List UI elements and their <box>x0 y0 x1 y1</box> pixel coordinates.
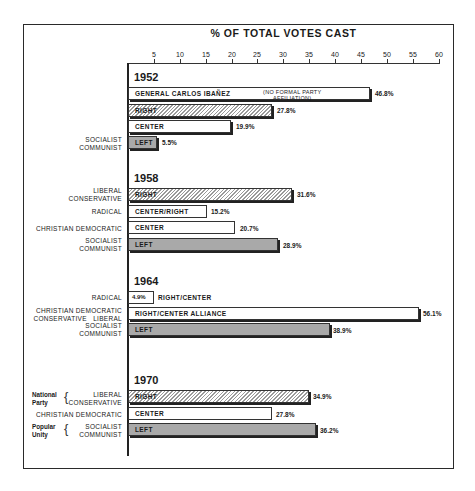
party-label: RADICAL <box>92 208 122 216</box>
bar-left: LEFT <box>128 136 157 149</box>
party-name: CONSERVATIVE LIBERAL <box>33 315 122 323</box>
year-label: 1952 <box>134 71 158 83</box>
year-label: 1958 <box>134 172 158 184</box>
value-label: 19.9% <box>236 123 254 130</box>
tick-label: 35 <box>305 51 313 58</box>
year-label: 1970 <box>134 374 158 386</box>
bar-right: RIGHT <box>128 104 272 117</box>
party-name: COMMUNIST <box>79 144 122 152</box>
tick-label: 25 <box>253 51 261 58</box>
bar-ibanez: GENERAL CARLOS IBAÑEZ (NO FORMAL PARTY A… <box>128 87 370 100</box>
value-label: 28.9% <box>283 242 301 249</box>
party-label: SOCIALIST COMMUNIST <box>79 322 122 337</box>
party-name: COMMUNIST <box>79 330 122 338</box>
bar-right-center-alliance: RIGHT/CENTER ALLIANCE <box>128 307 419 320</box>
coalition-name: National <box>32 391 57 399</box>
value-label: 31.6% <box>297 191 315 198</box>
bar-note: (NO FORMAL PARTY AFFILIATION) <box>263 89 321 101</box>
value-label: 46.8% <box>375 90 393 97</box>
party-name: SOCIALIST <box>79 322 122 330</box>
tick-label: 50 <box>383 51 391 58</box>
coalition-name: Party <box>32 399 57 407</box>
party-name: CONSERVATIVE <box>69 195 122 203</box>
year-label: 1964 <box>134 275 158 287</box>
note-line: AFFILIATION) <box>263 95 321 101</box>
bar-label: LEFT <box>135 139 153 146</box>
bar-label: RIGHT/CENTER ALLIANCE <box>135 310 227 317</box>
bar-label: CENTER <box>135 410 164 417</box>
tick-label: 15 <box>202 51 210 58</box>
party-name: COMMUNIST <box>79 431 122 439</box>
coalition-label: Popular Unity <box>32 423 55 438</box>
value-label: 4.9% <box>132 294 146 300</box>
bar-label: CENTER <box>135 123 164 130</box>
bar-radical: 4.9% <box>128 291 154 304</box>
party-label: SOCIALIST COMMUNIST <box>79 423 122 438</box>
bar-label: RIGHT <box>135 191 157 198</box>
coalition-label: National Party <box>32 391 57 406</box>
bar-label: RIGHT/CENTER <box>158 294 212 301</box>
bar-label: GENERAL CARLOS IBAÑEZ <box>135 90 230 97</box>
tick-label: 5 <box>152 51 156 58</box>
coalition-name: Popular <box>32 423 55 431</box>
axis-line <box>128 63 440 64</box>
bar-label: RIGHT <box>135 107 157 114</box>
tick-label: 30 <box>279 51 287 58</box>
value-label: 27.8% <box>276 411 294 418</box>
party-label: CHRISTIAN DEMOCRATIC <box>36 411 122 419</box>
party-label: CHRISTIAN DEMOCRATIC <box>36 225 122 233</box>
party-label: CHRISTIAN DEMOCRATIC CONSERVATIVE LIBERA… <box>33 307 122 322</box>
bar-left: LEFT <box>128 323 330 336</box>
party-label: SOCIALIST COMMUNIST <box>79 237 122 252</box>
party-name: SOCIALIST <box>79 136 122 144</box>
bar-left: LEFT <box>128 423 316 436</box>
bar-center: CENTER <box>128 221 235 234</box>
party-name: CONSERVATIVE <box>69 399 122 407</box>
party-name: CHRISTIAN DEMOCRATIC <box>33 307 122 315</box>
chart-title: % OF TOTAL VOTES CAST <box>128 27 439 39</box>
party-name: SOCIALIST <box>79 423 122 431</box>
party-label: LIBERAL CONSERVATIVE <box>69 187 122 202</box>
bar-label: LEFT <box>135 326 153 333</box>
party-name: SOCIALIST <box>79 237 122 245</box>
value-label: 36.2% <box>320 427 338 434</box>
tick-label: 60 <box>435 51 443 58</box>
party-label: SOCIALIST COMMUNIST <box>79 136 122 151</box>
bar-center: CENTER <box>128 120 231 133</box>
tick-label: 20 <box>228 51 236 58</box>
coalition-name: Unity <box>32 431 55 439</box>
party-label: LIBERAL CONSERVATIVE <box>69 391 122 406</box>
bar-center-right: CENTER/RIGHT <box>128 205 207 218</box>
value-label: 15.2% <box>211 208 229 215</box>
bar-label: CENTER/RIGHT <box>135 208 189 215</box>
party-name: COMMUNIST <box>79 245 122 253</box>
bar-label: CENTER <box>135 224 164 231</box>
value-label: 5.5% <box>162 139 177 146</box>
bar-label: LEFT <box>135 426 153 433</box>
value-label: 38.9% <box>333 327 351 334</box>
value-label: 34.9% <box>313 393 331 400</box>
party-label: RADICAL <box>92 294 122 302</box>
value-label: 27.8% <box>277 107 295 114</box>
tick-label: 45 <box>357 51 365 58</box>
bar-right: RIGHT <box>128 390 309 403</box>
bar-center: CENTER <box>128 407 272 420</box>
brace-icon: { <box>64 422 68 436</box>
value-label: 20.7% <box>240 225 258 232</box>
bar-label: RIGHT <box>135 393 157 400</box>
party-name: LIBERAL <box>69 187 122 195</box>
tick-label: 55 <box>409 51 417 58</box>
tick-label: 40 <box>331 51 339 58</box>
bar-left: LEFT <box>128 238 278 251</box>
tick-label: 10 <box>176 51 184 58</box>
party-name: LIBERAL <box>69 391 122 399</box>
value-label: 56.1% <box>423 310 441 317</box>
bar-label: LEFT <box>135 241 153 248</box>
bar-right: RIGHT <box>128 188 292 201</box>
